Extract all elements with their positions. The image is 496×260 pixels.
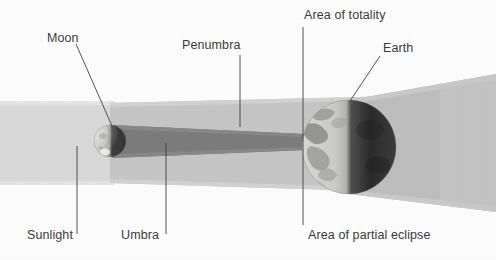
label-area-of-totality: Area of totality [304,8,386,22]
label-earth: Earth [383,41,413,55]
label-area-of-partial-eclipse: Area of partial eclipse [308,228,431,242]
earth-leader-line [350,56,380,101]
eclipse-diagram: Moon Penumbra Area of totality Earth Sun… [0,0,496,260]
label-penumbra: Penumbra [182,38,240,52]
label-sunlight: Sunlight [27,228,73,242]
label-moon: Moon [47,31,79,45]
earth-body [302,100,396,194]
label-umbra: Umbra [121,228,159,242]
